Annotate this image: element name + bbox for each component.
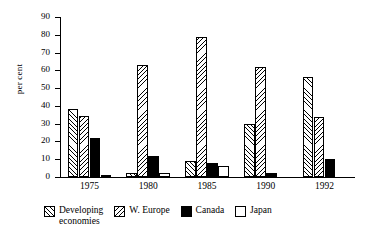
bar bbox=[79, 116, 90, 177]
y-tick-label: 80 bbox=[28, 30, 50, 39]
legend-swatch-icon bbox=[181, 206, 192, 217]
y-axis-title: per cent bbox=[14, 44, 24, 114]
y-tick-label: 60 bbox=[28, 65, 50, 74]
chart-legend: Developing economiesW. EuropeCanadaJapan bbox=[44, 205, 354, 226]
y-tick-label: 30 bbox=[28, 119, 50, 128]
y-tick-mark bbox=[55, 70, 60, 71]
y-tick-mark bbox=[55, 17, 60, 18]
x-tick-label: 1980 bbox=[118, 181, 178, 191]
bar bbox=[126, 173, 137, 177]
legend-label: W. Europe bbox=[129, 205, 169, 216]
y-tick-mark bbox=[55, 106, 60, 107]
y-tick-mark bbox=[55, 88, 60, 89]
bar-chart: per cent 0102030405060708090 19751980198… bbox=[0, 0, 381, 244]
legend-item: W. Europe bbox=[114, 205, 169, 217]
y-tick-label: 10 bbox=[28, 154, 50, 163]
y-tick-label: 70 bbox=[28, 48, 50, 57]
bar bbox=[314, 117, 325, 177]
bar bbox=[266, 173, 277, 177]
y-tick-mark bbox=[55, 124, 60, 125]
x-tick-label: 1985 bbox=[177, 181, 237, 191]
x-tick-label: 1990 bbox=[236, 181, 296, 191]
legend-swatch-icon bbox=[44, 206, 55, 217]
legend-item: Canada bbox=[181, 205, 225, 217]
bar bbox=[185, 161, 196, 177]
legend-item: Developing economies bbox=[44, 205, 103, 226]
legend-swatch-icon bbox=[114, 206, 125, 217]
x-tick-label: 1975 bbox=[59, 181, 119, 191]
y-tick-label: 20 bbox=[28, 136, 50, 145]
bar bbox=[218, 166, 229, 177]
legend-label: Japan bbox=[250, 205, 272, 216]
y-tick-mark bbox=[55, 35, 60, 36]
bar bbox=[68, 109, 79, 177]
legend-item: Japan bbox=[235, 205, 272, 217]
bar bbox=[101, 175, 112, 177]
y-tick-label: 50 bbox=[28, 83, 50, 92]
y-tick-label: 90 bbox=[28, 12, 50, 21]
bar bbox=[159, 173, 170, 177]
y-tick-mark bbox=[55, 141, 60, 142]
y-axis-line bbox=[60, 17, 61, 178]
bar bbox=[325, 159, 336, 177]
y-tick-label: 40 bbox=[28, 101, 50, 110]
bar bbox=[207, 163, 218, 177]
bar bbox=[303, 77, 314, 177]
legend-label: Developing economies bbox=[59, 205, 103, 226]
bar bbox=[148, 156, 159, 177]
y-tick-mark bbox=[55, 159, 60, 160]
bar bbox=[137, 65, 148, 177]
bar bbox=[90, 138, 101, 177]
bar bbox=[196, 37, 207, 177]
y-tick-mark bbox=[55, 177, 60, 178]
legend-swatch-icon bbox=[235, 206, 246, 217]
bar bbox=[244, 124, 255, 177]
y-tick-label: 0 bbox=[28, 172, 50, 181]
bar bbox=[255, 67, 266, 177]
legend-label: Canada bbox=[196, 205, 225, 216]
y-tick-mark bbox=[55, 53, 60, 54]
x-tick-label: 1992 bbox=[295, 181, 355, 191]
